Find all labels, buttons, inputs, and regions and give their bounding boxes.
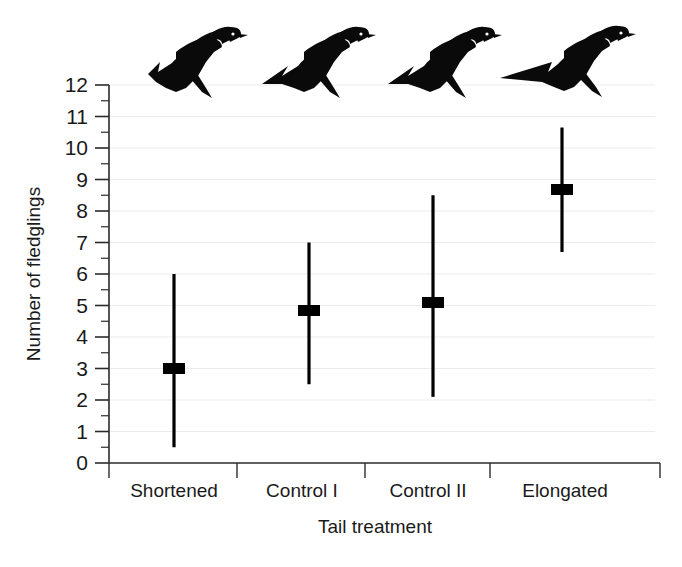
mean-marker [163, 363, 185, 374]
mean-marker [551, 184, 573, 195]
chart-canvas: 12 11 10 9 8 7 6 5 4 3 2 1 0 [0, 0, 682, 567]
swallow-silhouette-control-2 [388, 27, 502, 98]
x-category-label: Control I [266, 480, 338, 501]
x-category-label: Shortened [130, 480, 218, 501]
data-point-control-2 [422, 195, 444, 397]
gridlines [110, 85, 655, 432]
y-tick-label: 0 [76, 451, 88, 474]
y-tick-label: 3 [76, 357, 88, 380]
swallow-silhouette-shortened [148, 27, 248, 98]
swallow-silhouette-control-1 [262, 27, 376, 98]
y-axis-major-ticks [95, 85, 109, 463]
y-tick-label: 10 [65, 136, 88, 159]
fledglings-tail-treatment-figure: 12 11 10 9 8 7 6 5 4 3 2 1 0 [0, 0, 682, 567]
swallow-silhouette-elongated [500, 26, 636, 97]
x-category-label: Elongated [522, 480, 608, 501]
x-category-label: Control II [389, 480, 466, 501]
y-axis-tick-labels: 12 11 10 9 8 7 6 5 4 3 2 1 0 [65, 73, 89, 474]
y-tick-label: 9 [76, 168, 88, 191]
y-tick-label: 2 [76, 388, 88, 411]
y-tick-label: 11 [66, 105, 88, 128]
mean-marker [298, 305, 320, 316]
x-axis-title: Tail treatment [318, 516, 433, 537]
y-tick-label: 12 [65, 73, 88, 96]
y-tick-label: 8 [76, 199, 88, 222]
data-point-elongated [551, 128, 573, 253]
y-tick-label: 7 [76, 231, 88, 254]
y-tick-label: 5 [76, 294, 88, 317]
y-axis-title: Number of fledglings [23, 187, 44, 361]
y-tick-label: 1 [76, 420, 88, 443]
x-axis-ticks [109, 463, 660, 478]
x-axis-category-labels: Shortened Control I Control II Elongated [130, 480, 608, 501]
mean-marker [422, 297, 444, 308]
data-point-control-1 [298, 243, 320, 385]
y-tick-label: 6 [76, 262, 88, 285]
y-tick-label: 4 [76, 325, 88, 348]
data-point-shortened [163, 274, 185, 447]
